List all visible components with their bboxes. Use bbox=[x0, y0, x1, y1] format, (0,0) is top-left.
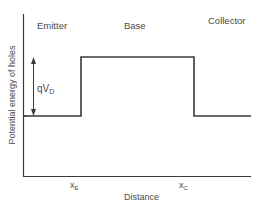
barrier-label: qVD bbox=[37, 83, 54, 95]
tick-label-x-c: xC bbox=[179, 180, 189, 191]
diagram-canvas: qVD Emitter Base Collector xE xC Distanc… bbox=[0, 0, 259, 210]
region-label-base: Base bbox=[124, 20, 146, 31]
arrow-down-icon bbox=[31, 109, 36, 116]
region-label-emitter: Emitter bbox=[37, 20, 67, 31]
energy-band-diagram: qVD Emitter Base Collector xE xC Distanc… bbox=[0, 0, 259, 210]
tick-label-x-e: xE bbox=[70, 180, 79, 191]
potential-energy-profile bbox=[23, 57, 251, 116]
y-axis-label: Potential energy of holes bbox=[7, 45, 17, 145]
barrier-height-arrow bbox=[31, 57, 36, 116]
x-axis-label: Distance bbox=[124, 192, 159, 202]
region-label-collector: Collector bbox=[208, 15, 246, 26]
arrow-up-icon bbox=[31, 57, 36, 64]
